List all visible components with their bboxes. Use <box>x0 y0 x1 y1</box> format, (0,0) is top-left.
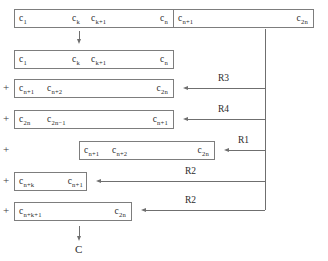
cell-cn-plus-1: cn+1 <box>68 177 83 187</box>
arrow-shaft-r2-lower <box>145 210 265 211</box>
cell-cn-plus-2: cn+2 <box>47 84 62 94</box>
operation-label-r2-lower: R2 <box>185 196 196 206</box>
cell-c1: c1 <box>19 14 27 24</box>
cell-c2n: c2n <box>297 14 308 24</box>
cell-cn-plus-2: cn+2 <box>112 146 127 156</box>
cell-c1: c1 <box>19 55 27 65</box>
block-row5: cn+1 cn+2 c2n <box>79 141 215 160</box>
operation-label-r1: R1 <box>238 136 249 146</box>
plus-sign-row5: + <box>3 144 9 155</box>
arrow-shaft-r2-upper <box>100 181 265 182</box>
cell-cn-plus-k-plus-1: cn+k+1 <box>19 207 42 217</box>
diagram-canvas: c1 ck ck+1 cn cn+1 c2n c1 ck ck+1 <box>0 0 328 261</box>
plus-sign-row6: + <box>3 175 9 186</box>
block-row7: cn+k+1 c2n <box>14 202 132 221</box>
arrow-head-output <box>77 236 81 241</box>
block-row1-left: c1 ck ck+1 cn <box>14 9 174 28</box>
arrow-head-r4 <box>183 117 188 121</box>
arrow-shaft-r4 <box>187 119 265 120</box>
cell-c2n-minus-1: c2n−1 <box>47 115 66 125</box>
arrow-head-r1 <box>224 148 229 152</box>
operation-label-r2-upper: R2 <box>185 167 196 177</box>
operation-label-r3: R3 <box>218 74 229 84</box>
arrow-head-r2-lower <box>141 208 146 212</box>
block-row1-right: cn+1 c2n <box>173 9 314 28</box>
cell-cn: cn <box>160 55 168 65</box>
cell-cn-plus-1: cn+1 <box>153 115 168 125</box>
cell-cn-plus-k: cn+k <box>19 177 34 187</box>
arrow-shaft-r3 <box>187 88 265 89</box>
block-row6: cn+k cn+1 <box>14 172 87 191</box>
cell-cn: cn <box>160 14 168 24</box>
cell-ck-plus-1: ck+1 <box>91 14 106 24</box>
cell-ck: ck <box>72 14 80 24</box>
operation-label-r4: R4 <box>218 105 229 115</box>
output-label-c: C <box>75 244 82 255</box>
arrow-head-row1-to-row2 <box>77 39 81 44</box>
cell-c2n: c2n <box>198 146 209 156</box>
arrow-head-r2-upper <box>96 179 101 183</box>
cell-cn-plus-1: cn+1 <box>178 14 193 24</box>
cell-c2n: c2n <box>19 115 30 125</box>
arrow-head-r3 <box>183 86 188 90</box>
cell-c2n: c2n <box>115 207 126 217</box>
plus-sign-row7: + <box>3 205 9 216</box>
plus-sign-row3: + <box>3 82 9 93</box>
cell-ck-plus-1: ck+1 <box>91 55 106 65</box>
block-row2: c1 ck ck+1 cn <box>14 50 174 69</box>
vertical-bus-line <box>265 29 266 210</box>
block-row4: c2n c2n−1 cn+1 <box>14 110 174 129</box>
cell-cn-plus-1: cn+1 <box>19 84 34 94</box>
arrow-shaft-r1 <box>228 150 265 151</box>
block-row3: cn+1 cn+2 c2n <box>14 79 174 98</box>
cell-c2n: c2n <box>157 84 168 94</box>
plus-sign-row4: + <box>3 113 9 124</box>
cell-cn-plus-1: cn+1 <box>84 146 99 156</box>
cell-ck: ck <box>72 55 80 65</box>
